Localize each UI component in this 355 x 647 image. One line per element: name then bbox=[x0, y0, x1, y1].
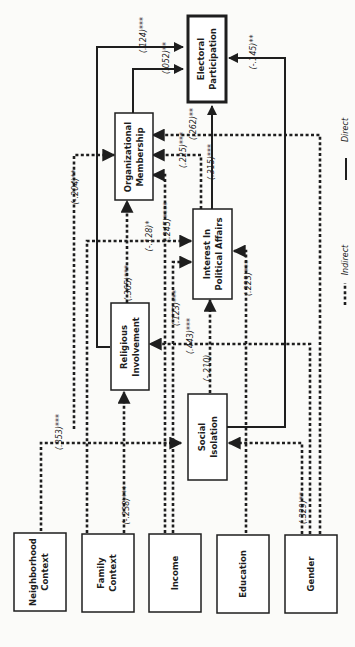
coef-gender-religious: (.443)*** bbox=[186, 318, 195, 354]
node-label: Neighborhood bbox=[28, 538, 38, 606]
coef-gender-organizational: (.262)** bbox=[189, 108, 198, 140]
coef-gender-social: (.329)** bbox=[299, 492, 308, 524]
node-label: Isolation bbox=[209, 416, 219, 458]
node-religious-involvement: Religious Involvement bbox=[111, 303, 149, 390]
coef-interest-organizational: (.225)*** bbox=[179, 132, 188, 168]
path-diagram: Electoral Participation Organizational M… bbox=[0, 0, 355, 647]
edge-neighborhood-organizational bbox=[74, 155, 114, 429]
coef-social-interest: (-.210) bbox=[203, 355, 212, 382]
coef-organizational-electoral: (.052)** bbox=[162, 42, 171, 74]
node-label: Involvement bbox=[131, 317, 141, 377]
node-electoral-participation: Electoral Participation bbox=[188, 16, 226, 102]
node-income: Income bbox=[149, 534, 201, 612]
legend-direct-label: Direct bbox=[341, 117, 350, 142]
node-label: Gender bbox=[306, 556, 316, 592]
edge-neighborhood-social bbox=[41, 443, 181, 531]
node-label: Participation bbox=[208, 28, 218, 90]
coef-religious-electoral: (.124)*** bbox=[139, 17, 148, 53]
node-label: Organizational bbox=[123, 122, 133, 192]
legend-indirect-label: Indirect bbox=[341, 244, 350, 275]
edge-interest-organizational bbox=[153, 155, 201, 209]
coef-social-electoral: (-.145)** bbox=[249, 35, 258, 70]
node-label: Income bbox=[170, 555, 180, 590]
node-label: Political Affairs bbox=[214, 218, 224, 291]
node-gender: Gender bbox=[285, 535, 337, 613]
coef-neighborhood-organizational: (-.204)** bbox=[71, 170, 80, 205]
node-label: Religious bbox=[119, 325, 129, 369]
node-label: Context bbox=[108, 554, 118, 592]
node-education: Education bbox=[217, 535, 269, 613]
coef-family-religious: (-.238)*** bbox=[122, 486, 131, 525]
coef-education-interest: (.223)*** bbox=[244, 260, 253, 296]
coef-income-organizational: (.245)**** bbox=[163, 202, 172, 242]
edge-gender-social bbox=[229, 443, 302, 534]
node-family-context: Family Context bbox=[82, 534, 134, 612]
node-neighborhood-context: Neighborhood Context bbox=[14, 533, 66, 611]
coef-family-interest: (-.128)* bbox=[145, 221, 154, 252]
node-label: Electoral bbox=[196, 38, 206, 80]
node-label: Education bbox=[238, 550, 248, 598]
node-organizational-membership: Organizational Membership bbox=[115, 113, 153, 200]
node-label: Interest In bbox=[202, 229, 212, 279]
edge-social-electoral bbox=[227, 58, 285, 427]
node-label: Family bbox=[96, 557, 106, 589]
coef-income-interest: (.123)*** bbox=[172, 290, 181, 326]
edge-gender-organizational bbox=[153, 135, 320, 534]
indirect-edges bbox=[41, 135, 320, 534]
edge-organizational-electoral bbox=[133, 69, 183, 113]
coef-interest-electoral: (.315)*** bbox=[207, 144, 216, 180]
coef-religious-organizational: (.365)*** bbox=[124, 265, 133, 301]
node-social-isolation: Social Isolation bbox=[188, 394, 227, 480]
node-interest-political-affairs: Interest In Political Affairs bbox=[193, 209, 232, 299]
legend: Indirect Direct bbox=[341, 117, 350, 305]
node-label: Social bbox=[197, 423, 207, 452]
coefficient-labels: (.353)*** (-.238)*** (.329)** (-.210) (.… bbox=[55, 17, 308, 525]
node-label: Context bbox=[40, 553, 50, 591]
coef-neighborhood-social: (.353)*** bbox=[55, 414, 64, 450]
node-label: Membership bbox=[135, 127, 145, 186]
